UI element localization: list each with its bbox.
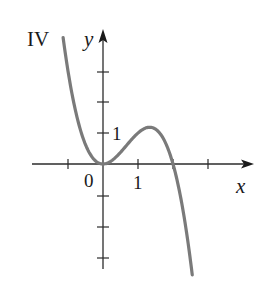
x-axis: x 0 1: [32, 159, 254, 198]
y-axis-label: y: [82, 27, 94, 51]
cubic-curve: [63, 38, 192, 275]
origin-label: 0: [84, 170, 94, 191]
x-tick-label-1: 1: [133, 172, 143, 193]
x-axis-label: x: [235, 174, 246, 198]
cubic-graph-figure: IV x 0 1 y 1: [0, 0, 272, 289]
panel-label: IV: [27, 27, 49, 51]
y-tick-label-1: 1: [112, 123, 122, 144]
